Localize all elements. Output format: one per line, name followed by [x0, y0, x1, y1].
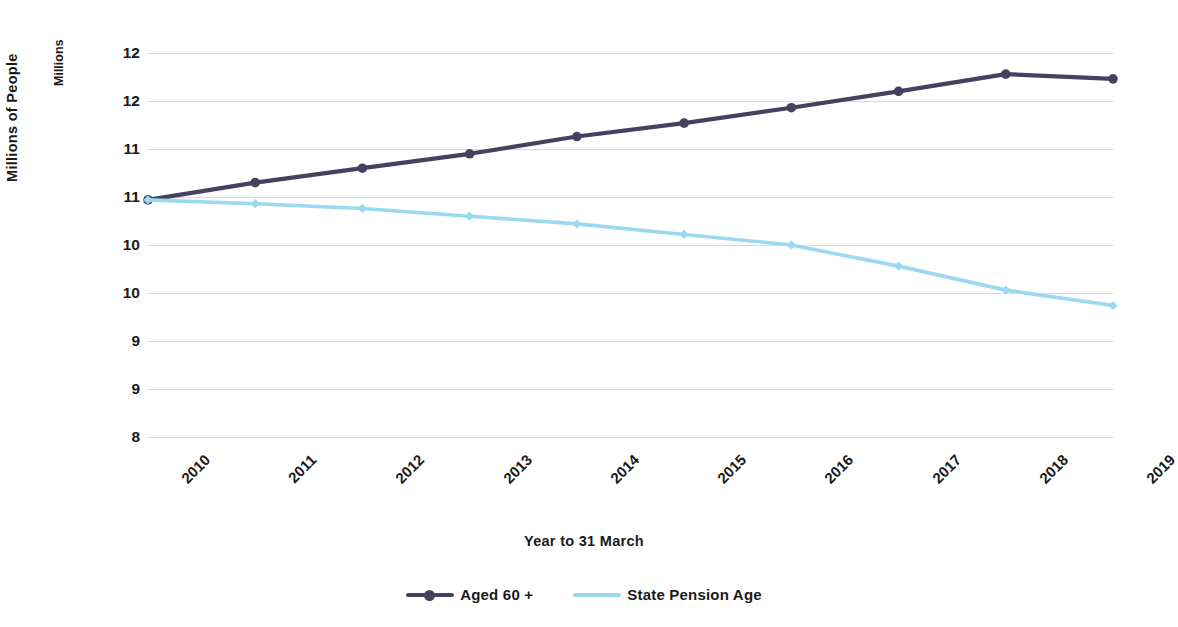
y-axis-tick-label: 9 [92, 332, 140, 350]
data-point [680, 230, 689, 239]
legend-swatch-icon [573, 588, 621, 602]
y-axis-tick-labels: 121211111010998 [90, 53, 140, 437]
data-point [465, 149, 475, 159]
y-axis-tick-label: 12 [92, 92, 140, 110]
data-point [465, 212, 474, 221]
data-point [251, 199, 260, 208]
y-axis-tick-label: 12 [92, 44, 140, 62]
x-axis-tick-label: 2010 [178, 451, 214, 487]
series-layer [148, 53, 1113, 437]
x-axis-title: Year to 31 March [0, 533, 1168, 549]
x-axis-tick-label: 2015 [714, 451, 750, 487]
data-point [572, 132, 582, 142]
series-1 [143, 69, 1118, 204]
legend-label: State Pension Age [627, 586, 762, 603]
y-axis-tick-label: 10 [92, 284, 140, 302]
x-axis-tick-label: 2018 [1036, 451, 1072, 487]
x-axis-tick-label: 2014 [607, 451, 643, 487]
y-axis-title: Millions of People [4, 0, 20, 182]
data-point [787, 103, 797, 113]
y-axis-tick-label: 9 [92, 380, 140, 398]
series-line [148, 74, 1113, 200]
y-axis-tick-label: 11 [92, 140, 140, 158]
legend-label: Aged 60 + [460, 586, 533, 603]
x-axis-tick-label: 2012 [392, 451, 428, 487]
data-point [358, 163, 368, 173]
legend-item[interactable]: Aged 60 + [406, 586, 533, 603]
data-point [894, 87, 904, 97]
x-axis-tick-label: 2011 [285, 451, 320, 486]
x-axis-tick-labels: 2010201120122013201420152016201720182019 [148, 443, 1113, 513]
data-point [572, 219, 581, 228]
x-axis-tick-label: 2016 [821, 451, 857, 487]
y-axis-units-label: Millions [52, 0, 66, 86]
legend-item[interactable]: State Pension Age [573, 586, 762, 603]
data-point [1108, 301, 1117, 310]
x-axis-tick-label: 2013 [499, 451, 535, 487]
y-axis-tick-label: 10 [92, 236, 140, 254]
data-point [787, 240, 796, 249]
series-line [148, 200, 1113, 306]
y-axis-tick-label: 11 [92, 188, 140, 206]
plot-area [148, 53, 1113, 437]
x-axis-tick-label: 2019 [1143, 451, 1178, 487]
x-axis-tick-label: 2017 [928, 451, 964, 487]
data-point [1108, 74, 1118, 84]
data-point [1001, 69, 1011, 79]
gridline [148, 437, 1113, 438]
data-point [1001, 286, 1010, 295]
y-axis-tick-label: 8 [92, 428, 140, 446]
series-2 [143, 195, 1117, 310]
data-point [679, 118, 689, 128]
data-point [250, 178, 260, 188]
legend-swatch-icon [406, 588, 454, 602]
chart-legend: Aged 60 +State Pension Age [0, 586, 1168, 603]
data-point [358, 204, 367, 213]
data-point [894, 262, 903, 271]
